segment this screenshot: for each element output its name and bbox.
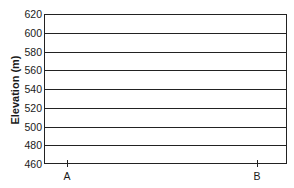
plot-area [44,14,287,164]
y-tick-600: 600 [12,28,42,38]
marker-a-label: A [61,170,73,182]
y-tick-620: 620 [12,9,42,19]
y-tick-580: 580 [12,47,42,57]
gridline-540 [45,89,286,90]
gridline-520 [45,108,286,109]
y-tick-520: 520 [12,103,42,113]
marker-b-label: B [251,170,263,182]
gridline-580 [45,52,286,53]
gridline-500 [45,127,286,128]
marker-b-tick [257,160,258,167]
gridline-600 [45,33,286,34]
y-tick-560: 560 [12,65,42,75]
y-tick-500: 500 [12,122,42,132]
y-tick-540: 540 [12,84,42,94]
y-tick-460: 460 [12,159,42,169]
y-tick-480: 480 [12,140,42,150]
gridline-560 [45,70,286,71]
gridline-480 [45,145,286,146]
marker-a-tick [67,160,68,167]
